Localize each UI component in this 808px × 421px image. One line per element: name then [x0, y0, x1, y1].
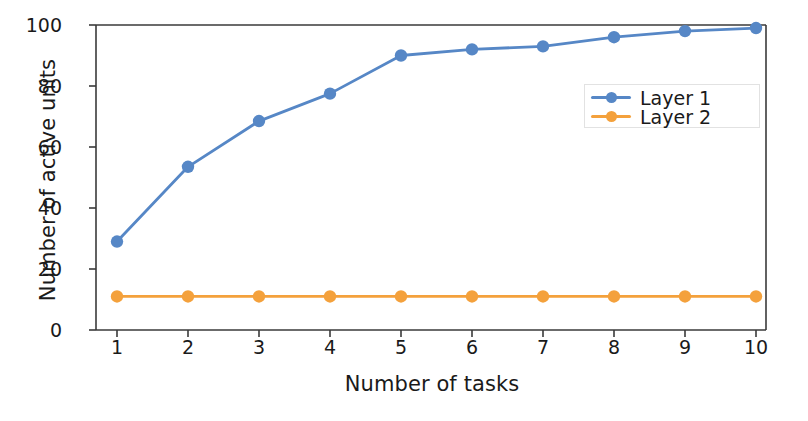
- data-point[interactable]: [537, 40, 549, 52]
- legend-label: Layer 2: [631, 106, 711, 128]
- data-point[interactable]: [608, 290, 620, 302]
- data-point[interactable]: [324, 290, 336, 302]
- data-point[interactable]: [750, 22, 762, 34]
- data-point[interactable]: [679, 290, 691, 302]
- x-tick-label: 2: [158, 336, 218, 358]
- legend-item[interactable]: Layer 1: [591, 88, 753, 107]
- axes-spines: [96, 25, 766, 330]
- data-point[interactable]: [537, 290, 549, 302]
- data-point[interactable]: [253, 115, 265, 127]
- x-tick-label: 5: [371, 336, 431, 358]
- data-point[interactable]: [111, 235, 123, 247]
- y-tick-label: 20: [2, 258, 62, 280]
- data-point[interactable]: [679, 25, 691, 37]
- y-tick-label: 60: [2, 136, 62, 158]
- data-point[interactable]: [182, 161, 194, 173]
- x-tick-label: 8: [584, 336, 644, 358]
- data-point[interactable]: [608, 31, 620, 43]
- y-axis-ticks: [89, 25, 96, 330]
- legend-marker-icon: [591, 91, 631, 105]
- x-tick-label: 1: [87, 336, 147, 358]
- data-point[interactable]: [182, 290, 194, 302]
- legend-item[interactable]: Layer 2: [591, 107, 753, 126]
- data-point[interactable]: [750, 290, 762, 302]
- x-tick-label: 9: [655, 336, 715, 358]
- data-point[interactable]: [111, 290, 123, 302]
- data-point[interactable]: [466, 43, 478, 55]
- x-tick-label: 6: [442, 336, 502, 358]
- data-point[interactable]: [324, 87, 336, 99]
- y-axis-label: Number of active units: [36, 20, 60, 340]
- data-point[interactable]: [395, 49, 407, 61]
- legend-marker-icon: [591, 110, 631, 124]
- y-tick-label: 0: [2, 319, 62, 341]
- x-axis-label: Number of tasks: [96, 372, 768, 396]
- y-tick-label: 100: [2, 14, 62, 36]
- x-tick-label: 4: [300, 336, 360, 358]
- x-tick-label: 10: [726, 336, 786, 358]
- x-tick-label: 3: [229, 336, 289, 358]
- legend: Layer 1 Layer 2: [584, 84, 760, 128]
- data-point[interactable]: [253, 290, 265, 302]
- data-point[interactable]: [395, 290, 407, 302]
- data-point[interactable]: [466, 290, 478, 302]
- y-tick-label: 80: [2, 75, 62, 97]
- data-series-group: [111, 22, 762, 303]
- figure: Number of active units Number of tasks 0…: [0, 0, 808, 421]
- series-line: [117, 28, 756, 242]
- y-tick-label: 40: [2, 197, 62, 219]
- x-tick-label: 7: [513, 336, 573, 358]
